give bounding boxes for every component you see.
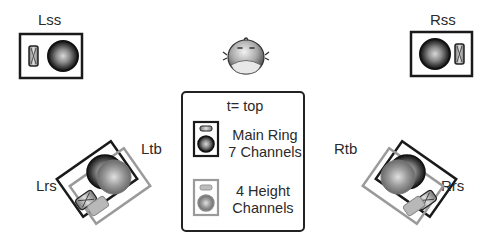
legend-title: t= top [215, 98, 275, 115]
speaker-label-lss: Lss [38, 12, 61, 27]
legend-height-line1: 4 Height [221, 183, 305, 200]
legend-height-line2: Channels [221, 200, 305, 217]
legend-height-speaker-icon [193, 179, 219, 216]
legend: t= top Main Ring 7 Channels 4 Height Cha… [181, 91, 305, 232]
legend-main-speaker-icon [193, 121, 219, 157]
speaker-label-rss: Rss [430, 12, 456, 27]
speaker-rtb-rrs-group-icon [352, 130, 462, 230]
speaker-lss-icon [19, 33, 83, 79]
speaker-lrs-ltb-group-icon [50, 130, 160, 230]
legend-main-line2: 7 Channels [223, 144, 307, 161]
listener-head-icon [222, 34, 270, 78]
legend-main-line1: Main Ring [223, 127, 307, 144]
speaker-rss-icon [410, 31, 473, 77]
